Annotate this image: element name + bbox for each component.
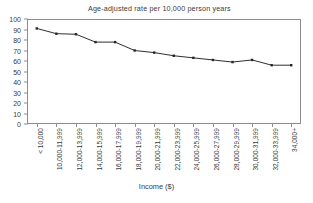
y-tick-label: 50: [13, 68, 21, 75]
y-tick-label: 10: [13, 110, 21, 117]
data-point-marker: [36, 27, 38, 29]
x-tick-label: 34,000+: [291, 128, 298, 152]
x-tick-label: 16,000-17,999: [115, 128, 122, 171]
data-point-marker: [173, 55, 175, 57]
x-tick-label: 24,000-25,999: [193, 128, 200, 171]
data-point-marker: [251, 59, 253, 61]
x-axis-title: Income ($): [0, 182, 313, 191]
data-point-marker: [94, 41, 96, 43]
data-point-marker: [270, 64, 272, 66]
x-tick-mark: [291, 124, 292, 127]
y-tick-label: 30: [13, 89, 21, 96]
x-tick-label: 26,000-27,999: [213, 128, 220, 171]
x-tick-mark: [56, 124, 57, 127]
data-point-marker: [290, 64, 292, 66]
y-tick-label: 40: [13, 79, 21, 86]
chart-title: Age-adjusted rate per 10,000 person year…: [88, 4, 231, 13]
data-point-marker: [192, 57, 194, 59]
x-tick-label: 20,000-21,999: [154, 128, 161, 171]
y-tick-label: 90: [13, 26, 21, 33]
data-point-marker: [231, 61, 233, 63]
data-point-marker: [133, 49, 135, 51]
x-tick-mark: [37, 124, 38, 127]
y-tick-label: 20: [13, 100, 21, 107]
x-tick-label: 14,000-15,999: [96, 128, 103, 171]
data-point-marker: [212, 59, 214, 61]
x-tick-label: < 10,000: [37, 128, 44, 154]
y-tick-label: 80: [13, 37, 21, 44]
data-point-marker: [55, 33, 57, 35]
data-point-marker: [114, 41, 116, 43]
y-tick-label: 100: [9, 16, 21, 23]
y-axis: 0102030405060708090100: [2, 19, 24, 124]
x-tick-label: 22,000-23,999: [174, 128, 181, 171]
line-series-plot: [27, 19, 301, 124]
y-tick-label: 60: [13, 58, 21, 65]
x-tick-label: 30,000-31,999: [252, 128, 259, 171]
x-axis: < 10,00010,000-11,99912,000-13,99914,000…: [27, 126, 301, 180]
y-tick-label: 0: [17, 121, 21, 128]
x-tick-label: 18,000-19,999: [135, 128, 142, 171]
x-tick-label: 10,000-11,999: [56, 128, 63, 170]
x-tick-label: 28,000-29,999: [233, 128, 240, 171]
chart-figure: Age-adjusted rate per 10,000 person year…: [0, 0, 313, 203]
data-point-marker: [75, 33, 77, 35]
x-tick-label: 12,000-13,999: [76, 128, 83, 171]
data-point-marker: [153, 51, 155, 53]
y-tick-label: 70: [13, 47, 21, 54]
x-tick-label: 32,000-33,999: [272, 128, 279, 171]
